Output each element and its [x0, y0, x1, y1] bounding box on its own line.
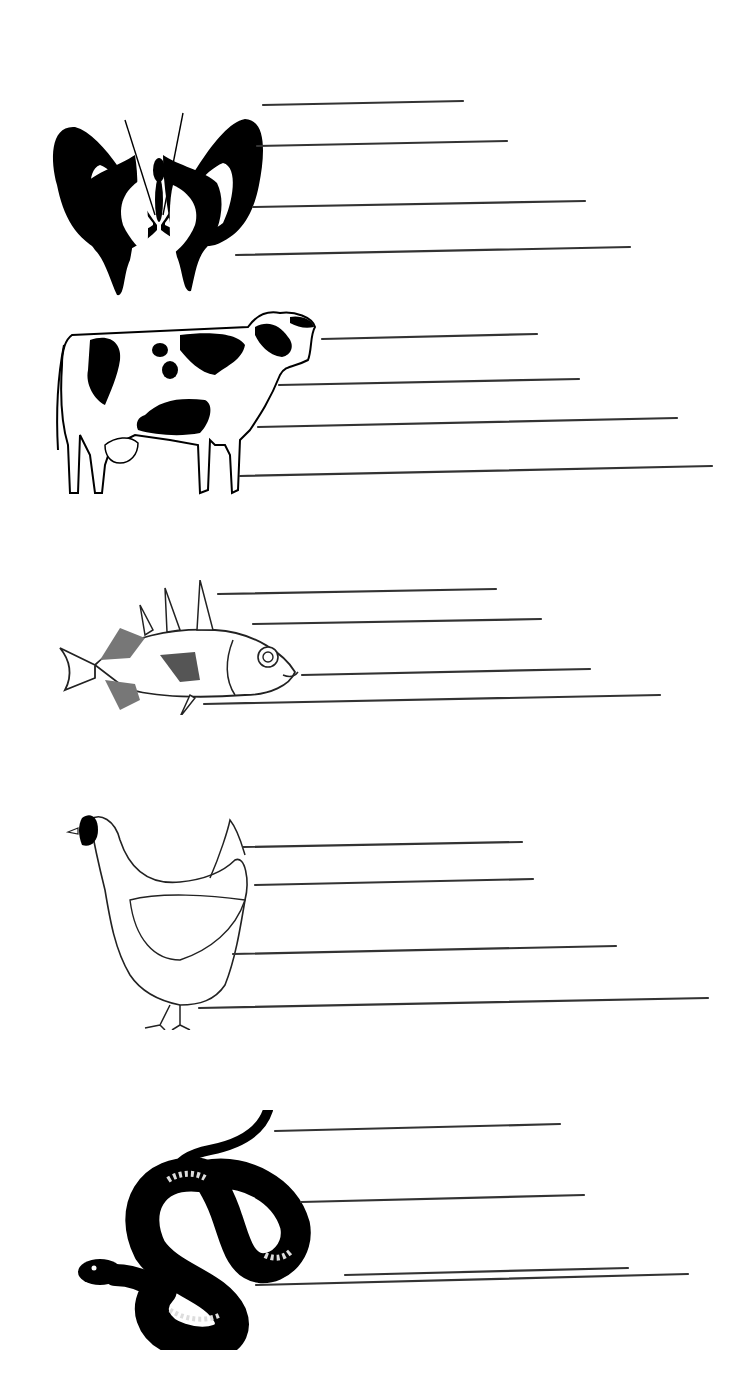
butterfly-answer-line-2[interactable] [257, 141, 507, 146]
cow-icon [50, 305, 320, 500]
snake-answer-line-3[interactable] [345, 1268, 628, 1275]
hen-answer-line-4[interactable] [199, 998, 708, 1008]
butterfly-answer-line-3[interactable] [253, 201, 585, 207]
hen-icon [60, 800, 255, 1030]
hen-answer-line-2[interactable] [255, 879, 533, 885]
snake-icon [70, 1110, 350, 1350]
fish-icon [55, 580, 305, 715]
butterfly-icon [45, 75, 270, 300]
butterfly-answer-line-4[interactable] [236, 247, 630, 255]
cow-answer-line-3[interactable] [258, 418, 677, 427]
worksheet [0, 0, 750, 1375]
hen-answer-line-1[interactable] [243, 842, 522, 847]
hen-answer-line-3[interactable] [233, 946, 616, 954]
cow-answer-line-1[interactable] [322, 334, 537, 339]
cow-answer-line-2[interactable] [279, 379, 579, 385]
fish-answer-line-3[interactable] [302, 669, 590, 675]
butterfly-answer-line-1[interactable] [263, 101, 463, 105]
